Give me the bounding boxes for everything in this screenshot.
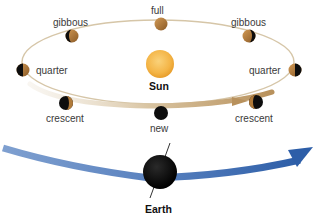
moon-quarter-right-icon [289,64,302,77]
label-quarter-right: quarter [249,66,281,76]
moon-quarter-left-icon [17,64,30,77]
label-full: full [151,6,164,16]
earth-icon [143,155,177,189]
label-sun: Sun [149,81,169,92]
label-earth: Earth [145,204,172,215]
moon-crescent-left-icon [59,96,73,110]
moon-gibbous-right-icon [243,30,256,43]
label-gibbous-right: gibbous [231,18,266,28]
label-gibbous-left: gibbous [53,18,88,28]
moon-phase-diagram [0,0,317,218]
label-crescent-right: crescent [235,114,273,124]
moon-new-icon [154,106,168,120]
label-crescent-left: crescent [46,114,84,124]
moon-full-icon [155,18,168,31]
moon-crescent-right-icon [249,95,263,109]
moon-gibbous-left-icon [66,30,79,43]
label-new: new [150,124,168,134]
sun-icon [146,50,174,78]
label-quarter-left: quarter [36,66,68,76]
